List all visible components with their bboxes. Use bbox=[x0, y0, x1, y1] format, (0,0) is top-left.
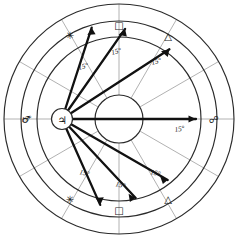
mars-left-icon: ♂ bbox=[22, 114, 31, 125]
hub-spoke bbox=[131, 140, 160, 190]
degree-label: 15° bbox=[110, 46, 122, 56]
trine-lower-right-icon: △ bbox=[164, 194, 172, 205]
aspect-arrowhead bbox=[96, 197, 104, 205]
hub-spoke bbox=[131, 48, 160, 98]
degree-label: 15° bbox=[77, 61, 89, 71]
sextile-upper-left-icon: ✳ bbox=[66, 30, 74, 41]
square-bottom-icon: □ bbox=[114, 205, 123, 216]
trine-upper-right-icon: △ bbox=[164, 31, 172, 42]
degree-label: 15° bbox=[150, 56, 162, 66]
aspect-wheel-svg: ♃ 15° 15° 15° 15° 15° 15° 15° 15° ✳ □ △ … bbox=[0, 0, 239, 239]
hub-spoke bbox=[140, 131, 190, 160]
degree-label: 15° bbox=[115, 180, 127, 190]
degree-label: 15° bbox=[79, 168, 91, 178]
sextile-lower-left-icon: ✳ bbox=[66, 194, 74, 205]
degree-label: 15° bbox=[174, 124, 185, 134]
hub-spoke bbox=[140, 78, 190, 107]
square-top-icon: □ bbox=[114, 20, 123, 31]
degree-label: 15° bbox=[150, 168, 162, 178]
aspect-line-upper-left-steep bbox=[62, 28, 92, 119]
jupiter-glyph: ♃ bbox=[57, 114, 66, 126]
astrology-aspect-chart: ♃ 15° 15° 15° 15° 15° 15° 15° 15° ✳ □ △ … bbox=[0, 0, 239, 239]
opposition-right-icon: ☍ bbox=[209, 114, 219, 125]
aspect-arrowhead bbox=[189, 116, 197, 123]
aspect-arrowhead bbox=[87, 28, 95, 35]
